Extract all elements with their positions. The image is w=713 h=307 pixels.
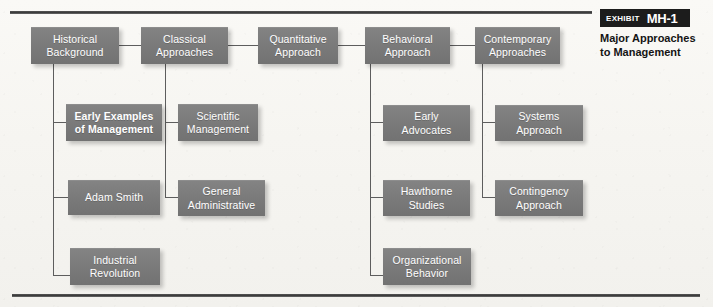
node-label: Industrial Revolution: [90, 254, 141, 280]
node-hawthorne-studies[interactable]: Hawthorne Studies: [383, 180, 470, 216]
connector-historical-to-industrial-revolution: [53, 275, 70, 276]
connector-historical-to-adam-smith: [53, 197, 68, 198]
exhibit-code: MH-1: [647, 11, 678, 26]
node-organizational-behavior[interactable]: Organizational Behavior: [383, 248, 471, 285]
node-adam-smith[interactable]: Adam Smith: [68, 180, 160, 215]
node-label: Contemporary Approaches: [484, 33, 552, 59]
connector-behavioral-to-organizational-behavior: [370, 275, 383, 276]
node-label: Quantitative Approach: [269, 33, 326, 59]
node-label: Early Examples of Management: [74, 110, 153, 136]
connector-quantitative-to-behavioral: [338, 45, 365, 46]
exhibit-badge: EXHIBIT MH-1: [600, 9, 690, 27]
bottom-divider-rule: [12, 294, 700, 297]
node-quantitative-approach[interactable]: Quantitative Approach: [258, 27, 338, 64]
connector-spine-classical: [165, 64, 166, 197]
connector-behavioral-to-early-advocates: [370, 122, 383, 123]
node-label: Behavioral Approach: [382, 33, 433, 59]
connector-historical-to-classical: [119, 45, 141, 46]
connector-behavioral-to-hawthorne: [370, 197, 383, 198]
connector-historical-to-early-examples: [53, 122, 66, 123]
node-label: Hawthorne Studies: [401, 185, 453, 211]
connector-classical-to-quantitative: [228, 45, 258, 46]
node-behavioral-approach[interactable]: Behavioral Approach: [365, 27, 450, 64]
node-systems-approach[interactable]: Systems Approach: [495, 105, 583, 141]
connector-spine-behavioral: [370, 64, 371, 275]
node-label: Systems Approach: [516, 110, 562, 136]
exhibit-canvas: Historical Background Classical Approach…: [0, 0, 713, 307]
node-label: Contingency Approach: [509, 185, 568, 211]
node-early-advocates[interactable]: Early Advocates: [383, 105, 470, 141]
node-label: Early Advocates: [402, 110, 452, 136]
node-scientific-management[interactable]: Scientific Management: [178, 104, 258, 141]
node-contemporary-approaches[interactable]: Contemporary Approaches: [475, 27, 560, 64]
connector-behavioral-to-contemporary: [450, 45, 475, 46]
exhibit-label: EXHIBIT: [606, 14, 640, 23]
node-label: Classical Approaches: [156, 33, 213, 59]
connector-contemporary-to-contingency: [482, 197, 495, 198]
exhibit-caption: Major Approaches to Management: [600, 31, 706, 59]
node-contingency-approach[interactable]: Contingency Approach: [495, 180, 583, 216]
node-label: Scientific Management: [187, 110, 249, 136]
connector-spine-historical: [53, 64, 54, 275]
node-early-examples-of-management[interactable]: Early Examples of Management: [66, 104, 162, 141]
node-label: General Administrative: [188, 185, 255, 211]
node-industrial-revolution[interactable]: Industrial Revolution: [70, 248, 160, 285]
connector-spine-contemporary: [482, 64, 483, 197]
top-divider-rule: [10, 11, 592, 14]
node-label: Historical Background: [46, 33, 103, 59]
node-general-administrative[interactable]: General Administrative: [178, 180, 265, 216]
node-label: Adam Smith: [85, 191, 143, 204]
connector-classical-to-general-administrative: [165, 197, 178, 198]
node-historical-background[interactable]: Historical Background: [31, 27, 119, 64]
node-classical-approaches[interactable]: Classical Approaches: [141, 27, 228, 64]
connector-contemporary-to-systems: [482, 122, 495, 123]
node-label: Organizational Behavior: [392, 254, 461, 280]
connector-classical-to-scientific: [165, 122, 178, 123]
